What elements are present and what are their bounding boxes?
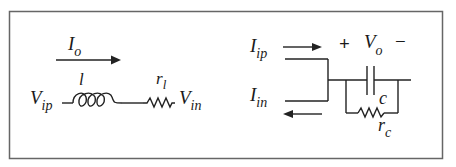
node-label-vip: Vip [30,87,53,113]
resistor-label-rl: rl [156,69,167,92]
inductor-label: l [79,70,84,89]
resistor-icon [143,98,175,107]
capacitor-label: c [379,88,387,108]
left-circuit: Io l rl Vip Vin [30,33,202,113]
figure-border [10,12,443,159]
node-label-vin: Vin [179,87,202,113]
minus-sign: − [395,31,406,52]
current-label-io: Io [67,33,81,59]
right-circuit: Iip + Vo − c rc Ii [249,31,411,140]
circuit-diagram: Io l rl Vip Vin Iip + Vo − [0,0,456,167]
current-label-iip: Iip [249,35,267,61]
capacitor-icon [367,66,374,95]
current-label-iin: Iin [249,84,267,110]
current-arrow-right-icon [56,56,121,65]
resistor-label-rc: rc [378,115,392,140]
voltage-label-vo: Vo [364,31,383,58]
current-arrow-left-icon [283,110,322,118]
current-arrow-right-icon [283,43,322,51]
plus-sign: + [339,33,350,54]
inductor-icon [73,93,122,106]
